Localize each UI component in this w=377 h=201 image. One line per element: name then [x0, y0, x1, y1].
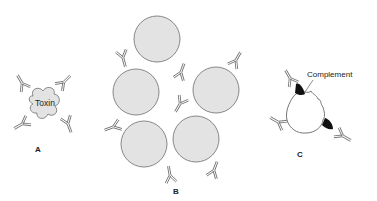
panel-c: Complement C — [267, 67, 354, 159]
panel-label-b: B — [173, 187, 179, 196]
antibody-icon — [11, 115, 32, 134]
particle — [113, 69, 159, 115]
antibody-icon — [54, 71, 75, 92]
antibody-icon — [102, 119, 122, 136]
complement-pointer — [305, 80, 313, 92]
panel-a: Toxin A — [11, 71, 77, 154]
particle — [193, 67, 239, 113]
immune-function-diagram: Toxin A B Complement C — [0, 0, 377, 201]
particle — [134, 16, 180, 62]
complement-label: Complement — [307, 70, 353, 79]
antibody-icon — [206, 159, 223, 179]
antibody-icon — [170, 94, 189, 115]
antibody-icon — [333, 127, 354, 146]
complement-deposit — [295, 84, 305, 96]
antibody-icon — [12, 72, 31, 93]
target-cell — [286, 91, 324, 133]
panel-label-a: A — [35, 145, 41, 154]
antibody-icon — [115, 49, 131, 69]
antibody-icon — [227, 49, 246, 70]
particle — [173, 116, 219, 162]
antibody-icon — [173, 61, 190, 81]
antibody-icon — [60, 114, 77, 134]
panel-b: B — [102, 16, 245, 196]
particle — [121, 121, 167, 167]
antibody-icon — [163, 165, 178, 184]
antibody-icon — [267, 112, 288, 131]
toxin-label: Toxin — [35, 98, 55, 108]
panel-label-c: C — [297, 150, 303, 159]
